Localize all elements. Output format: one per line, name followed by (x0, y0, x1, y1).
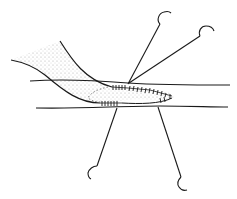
graft-vessel (11, 41, 174, 103)
needle-top-left (128, 12, 171, 84)
curved-needle-icon (158, 12, 171, 24)
curved-needle-icon (88, 166, 97, 179)
needle-bottom-left (88, 108, 117, 179)
curved-needle-icon (178, 177, 187, 190)
curved-needle-icon (199, 26, 214, 36)
needle-bottom-right (158, 107, 187, 190)
needle-top-right (129, 26, 214, 83)
anastomosis-illustration (0, 0, 237, 199)
